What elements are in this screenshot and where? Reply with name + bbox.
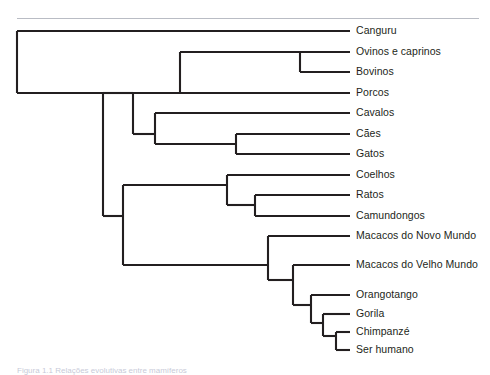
tip-label-humano: Ser humano [356,344,414,355]
tip-label-caes: Cães [356,128,381,139]
tip-label-ratos: Ratos [356,189,384,200]
tip-label-gorila: Gorila [356,308,384,319]
figure-caption: Figura 1.1 Relações evolutivas entre mam… [17,365,317,375]
tip-label-porcos: Porcos [356,87,389,98]
tip-label-novo-mundo: Macacos do Novo Mundo [356,230,476,241]
tip-label-chimpanze: Chimpanzé [356,326,410,337]
tip-label-velho-mundo: Macacos do Velho Mundo [356,259,478,270]
tip-label-camundongos: Camundongos [356,210,425,221]
tip-label-gatos: Gatos [356,148,384,159]
tip-label-orangotango: Orangotango [356,289,418,300]
tip-label-canguru: Canguru [356,25,397,36]
tip-label-bovinos: Bovinos [356,66,394,77]
phylogenetic-tree-figure: Canguru Ovinos e caprinos Bovinos Porcos… [0,0,490,375]
tip-label-coelhos: Coelhos [356,169,395,180]
tip-label-ovinos: Ovinos e caprinos [356,46,441,57]
tip-label-cavalos: Cavalos [356,107,394,118]
